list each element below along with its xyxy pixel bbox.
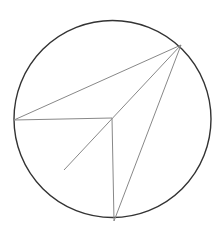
segment-o-c — [112, 118, 114, 221]
segment-a-c — [114, 45, 181, 221]
segment-a-d — [64, 45, 181, 170]
geometry-diagram — [0, 0, 222, 237]
segment-a-b — [14, 45, 181, 120]
segments — [14, 45, 181, 221]
segment-b-o — [14, 118, 112, 120]
